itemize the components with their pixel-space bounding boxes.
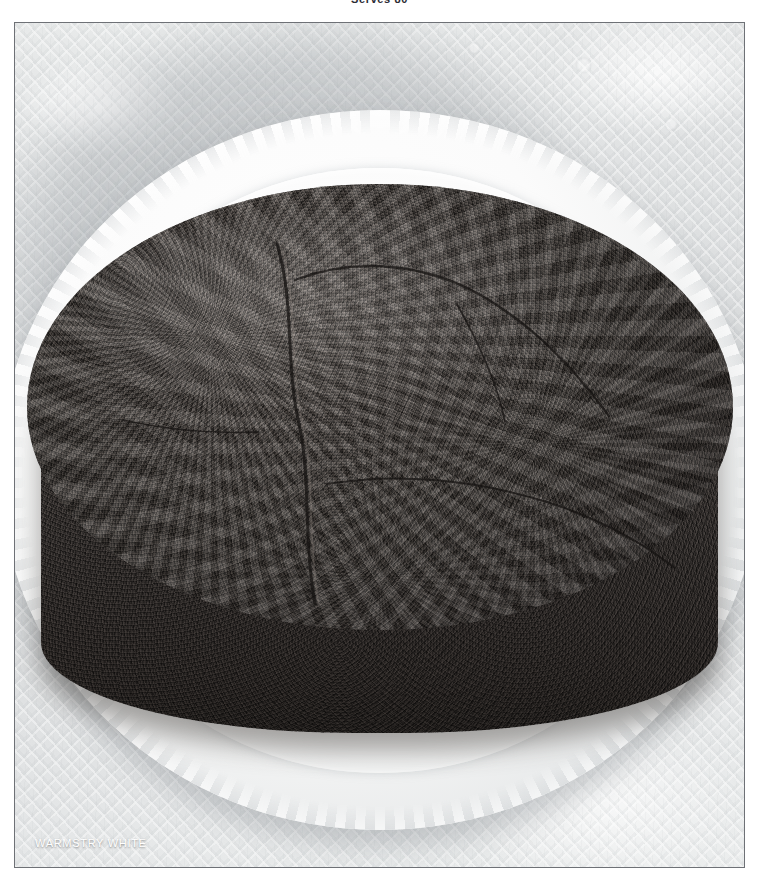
cake-group (27, 184, 733, 756)
cake-surface-cracks (27, 184, 733, 630)
photo-caption: WARMSTRY WHITE (35, 837, 147, 849)
plate-group (15, 110, 744, 830)
photograph: WARMSTRY WHITE (15, 23, 744, 867)
serving-plate (15, 110, 744, 830)
cake-top-surface (27, 184, 733, 630)
page-header-text: Serves 80 (0, 0, 759, 3)
photograph-frame: WARMSTRY WHITE (14, 22, 745, 868)
